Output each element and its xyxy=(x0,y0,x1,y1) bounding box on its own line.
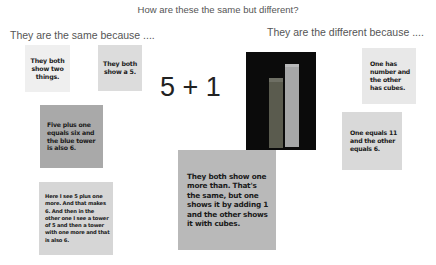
same-card-show-5[interactable]: They both show a 5. xyxy=(98,45,142,91)
card-text: Here I see 5 plus one more. And that mak… xyxy=(45,193,110,243)
different-heading: They are the different because .... xyxy=(267,26,424,38)
center-card-one-more-than[interactable]: They both show one more than. That's the… xyxy=(178,150,276,250)
card-text: One has number and the other has cubes. xyxy=(370,60,413,92)
different-card-equals-11[interactable]: One equals 11 and the other equals 6. xyxy=(342,112,402,170)
card-text: They both show two things. xyxy=(27,57,68,81)
same-card-two-things[interactable]: They both show two things. xyxy=(25,45,70,92)
tower-photo xyxy=(246,52,316,150)
short-tower-icon xyxy=(269,78,283,148)
same-heading: They are the same because .... xyxy=(10,29,155,41)
same-card-here-i-see[interactable]: Here I see 5 plus one more. And that mak… xyxy=(39,182,113,255)
equation-text: 5 + 1 xyxy=(160,72,221,103)
same-card-five-plus-one[interactable]: Five plus one equals six and the blue to… xyxy=(40,105,103,168)
tall-tower-icon xyxy=(285,64,299,147)
page-title: How are these the same but different? xyxy=(0,4,436,15)
card-text: They both show a 5. xyxy=(100,60,140,76)
card-text: One equals 11 and the other equals 6. xyxy=(350,129,399,153)
card-text: They both show one more than. That's the… xyxy=(187,172,270,229)
different-card-number-cubes[interactable]: One has number and the other has cubes. xyxy=(362,48,416,104)
card-text: Five plus one equals six and the blue to… xyxy=(47,121,99,152)
